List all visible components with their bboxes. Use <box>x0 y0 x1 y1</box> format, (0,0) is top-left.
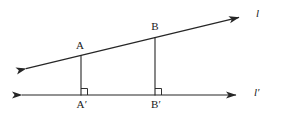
line-l <box>26 17 239 68</box>
label-line-l: l <box>256 8 259 19</box>
right-angle-mark-aprime <box>81 89 88 96</box>
label-point-b: B <box>151 21 159 32</box>
label-line-l-prime: l′ <box>254 87 259 98</box>
label-foot-b-prime: B′ <box>151 99 161 110</box>
right-angle-mark-bprime <box>155 89 162 96</box>
label-point-a: A <box>76 40 84 51</box>
label-foot-a-prime: A′ <box>77 99 88 110</box>
geometry-diagram-canvas <box>0 0 284 116</box>
geometry-figure: A B A′ B′ l l′ <box>0 0 284 116</box>
